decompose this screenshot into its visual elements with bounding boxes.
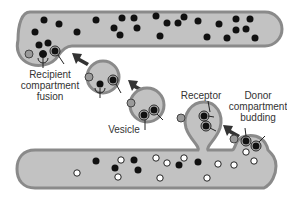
- recipient-label: Recipient compartment fusion: [14, 69, 86, 102]
- receptor-label: Receptor: [176, 90, 226, 101]
- recipient-compartment: [17, 12, 282, 65]
- vesicle-2: [130, 88, 164, 122]
- vesicle-label: Vesicle: [104, 124, 144, 135]
- donor-label: Donor compartment budding: [228, 90, 287, 123]
